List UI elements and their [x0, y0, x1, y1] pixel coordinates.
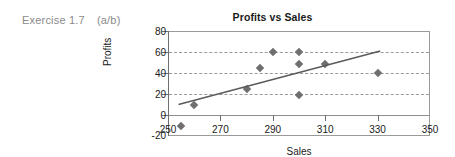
x-tick-label-270: 270 — [212, 124, 229, 135]
x-tick-label-290: 290 — [264, 124, 281, 135]
x-tick-label-330: 330 — [369, 124, 386, 135]
plot-area — [168, 31, 430, 136]
chart-profits-vs-sales: Profits vs Sales Profits -20020406080 25… — [110, 6, 455, 157]
y-tick-label-60: 60 — [155, 47, 166, 58]
zero-line — [169, 115, 429, 116]
gridline-y-40 — [169, 73, 429, 74]
x-tick-310 — [325, 115, 326, 121]
x-tick-290 — [273, 115, 274, 121]
x-tick-label-310: 310 — [317, 124, 334, 135]
y-tick-label-40: 40 — [155, 68, 166, 79]
y-tick-label-20: 20 — [155, 89, 166, 100]
exercise-label: Exercise 1.7(a/b) — [22, 14, 121, 26]
x-tick-270 — [220, 115, 221, 121]
y-axis-title: Profits — [102, 38, 113, 66]
exercise-number: Exercise 1.7 — [22, 14, 85, 26]
y-tick-label-80: 80 — [155, 26, 166, 37]
chart-title: Profits vs Sales — [110, 11, 435, 23]
x-axis-title: Sales — [168, 146, 430, 157]
x-tick-label-250: 250 — [160, 124, 177, 135]
y-tick-label-0: 0 — [160, 110, 166, 121]
x-tick-330 — [378, 115, 379, 121]
y-axis-line — [168, 31, 169, 136]
x-tick-label-350: 350 — [422, 124, 439, 135]
screenshot-root: Exercise 1.7(a/b) Profits vs Sales Profi… — [0, 0, 455, 157]
